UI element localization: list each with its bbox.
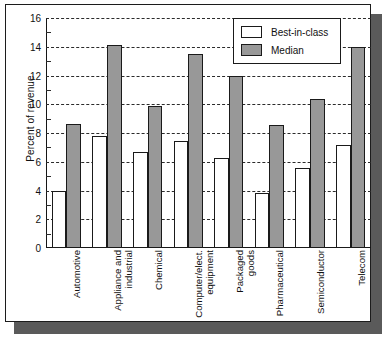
bar xyxy=(133,152,148,248)
bar xyxy=(351,47,366,248)
y-tick-label-2: 2 xyxy=(35,214,41,225)
y-tick-label-14: 14 xyxy=(30,41,41,52)
bar xyxy=(255,193,270,248)
bar xyxy=(66,124,81,248)
bar xyxy=(174,141,189,248)
legend-label-median: Median xyxy=(271,45,304,56)
legend-item-median: Median xyxy=(241,41,340,59)
bar xyxy=(188,54,203,248)
legend-item-best-in-class: Best-in-class xyxy=(241,23,340,41)
bar xyxy=(229,76,244,249)
chart-figure: Percent of revenue 0246810121416 Automot… xyxy=(0,0,386,352)
bar xyxy=(295,168,310,248)
x-axis-label: Computer/elect. equipment xyxy=(193,250,215,350)
y-tick-label-10: 10 xyxy=(30,99,41,110)
x-axis-label: Automotive xyxy=(71,250,82,350)
x-axis-labels: AutomotiveAppliance and industrialChemic… xyxy=(46,250,371,350)
x-axis-label: Semiconductor xyxy=(315,250,326,350)
legend-swatch-median xyxy=(241,44,262,56)
bar xyxy=(148,106,163,248)
bar xyxy=(269,125,284,248)
y-tick-label-12: 12 xyxy=(30,70,41,81)
legend-swatch-best-in-class xyxy=(241,26,262,38)
x-axis-label: Chemical xyxy=(153,250,164,350)
bar xyxy=(336,145,351,248)
bar xyxy=(92,136,107,248)
bar xyxy=(310,99,325,248)
x-axis-label: Telecom xyxy=(356,250,367,350)
x-axis-label: Packaged goods xyxy=(234,250,256,350)
y-tick-label-0: 0 xyxy=(35,243,41,254)
y-tick-label-8: 8 xyxy=(35,128,41,139)
bar xyxy=(214,158,229,248)
y-tick-label-6: 6 xyxy=(35,156,41,167)
chart-legend: Best-in-class Median xyxy=(233,18,341,64)
x-axis-label: Appliance and industrial xyxy=(112,250,134,350)
y-tick-label-4: 4 xyxy=(35,185,41,196)
x-axis-label: Pharmaceutical xyxy=(274,250,285,350)
chart-panel: Percent of revenue 0246810121416 Automot… xyxy=(5,4,371,322)
bar xyxy=(52,191,67,249)
bar xyxy=(107,45,122,248)
legend-label-best-in-class: Best-in-class xyxy=(271,27,328,38)
y-tick-label-16: 16 xyxy=(30,13,41,24)
